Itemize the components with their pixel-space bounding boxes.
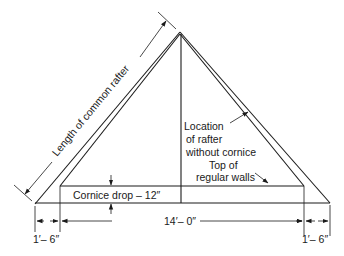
walls-label-line1: Top of xyxy=(209,159,238,171)
walls-label-line2: regular walls xyxy=(196,171,255,183)
location-label-line1: Location xyxy=(184,120,224,132)
left-overhang-label: 1′– 6″ xyxy=(33,233,59,245)
cornice-drop-label: Cornice drop – 12″ xyxy=(73,189,160,201)
right-overhang-label: 1′– 6″ xyxy=(302,233,328,245)
roof-framing-diagram: Length of common rafter Location of raft… xyxy=(0,0,344,256)
location-label-line2: of rafter xyxy=(186,133,223,145)
span-label: 14′– 0″ xyxy=(164,215,196,227)
walls-leader-arrow xyxy=(255,173,268,183)
location-leader-arrow xyxy=(230,112,248,123)
location-label-line3: without cornice xyxy=(185,146,256,158)
